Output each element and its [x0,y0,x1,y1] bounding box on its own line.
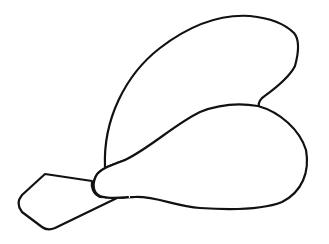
drawing-canvas [0,0,329,244]
line-drawing [0,0,329,244]
